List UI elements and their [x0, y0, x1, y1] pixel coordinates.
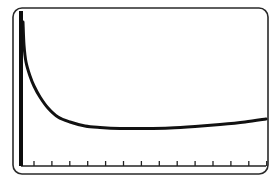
calculator-screen-frame [13, 8, 268, 174]
chart [0, 0, 275, 183]
data-curve [23, 22, 266, 129]
